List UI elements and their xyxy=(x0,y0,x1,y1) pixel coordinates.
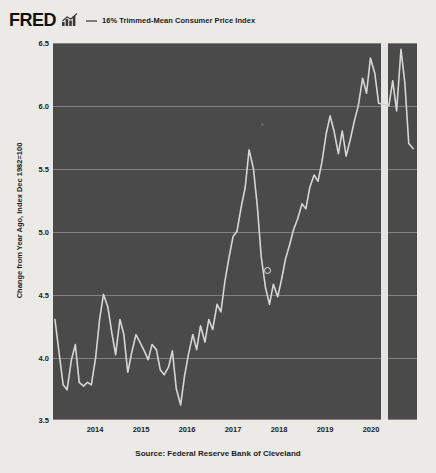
source-caption: Source: Federal Reserve Bank of Clevelan… xyxy=(0,449,436,458)
chart-cursor-dot-secondary xyxy=(261,123,264,126)
x-tick-label: 2020 xyxy=(363,425,380,434)
plot-area[interactable] xyxy=(53,43,417,420)
y-tick-label: 6.5 xyxy=(5,39,49,48)
y-axis-ticks: 6.5 6.0 5.5 5.0 4.5 4.0 3.5 Change from … xyxy=(0,0,49,473)
x-tick-label: 2015 xyxy=(133,425,150,434)
chart-cursor-dot[interactable] xyxy=(264,267,271,274)
x-tick-label: 2014 xyxy=(87,425,104,434)
x-tick-label: 2018 xyxy=(271,425,288,434)
y-tick-label: 6.0 xyxy=(5,102,49,111)
chart-plot-wrapper: 6.5 6.0 5.5 5.0 4.5 4.0 3.5 Change from … xyxy=(0,0,436,473)
x-tick-label: 2019 xyxy=(317,425,334,434)
y-tick-label: 5.0 xyxy=(5,228,49,237)
fred-chart-page: FRED 16% Trimmed-Mean Consumer Price Ind… xyxy=(0,0,436,473)
x-tick-label: 2017 xyxy=(225,425,242,434)
y-axis-title: Change from Year Ago, Index Dec 1982=100 xyxy=(15,126,24,316)
y-tick-label: 4.0 xyxy=(5,354,49,363)
series-line-16pct-trimmed-mean-cpi xyxy=(53,43,417,420)
y-tick-label: 3.5 xyxy=(5,416,49,425)
x-tick-label: 2016 xyxy=(179,425,196,434)
y-tick-label: 5.5 xyxy=(5,165,49,174)
y-tick-label: 4.5 xyxy=(5,291,49,300)
